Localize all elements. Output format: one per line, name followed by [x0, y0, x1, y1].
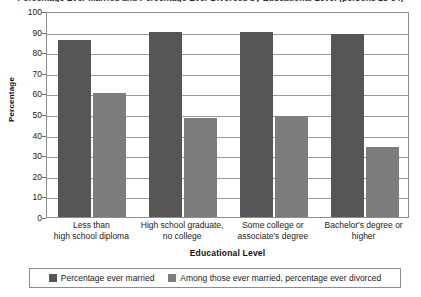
bar-series-0-category-1 [149, 32, 182, 217]
legend-item-1[interactable]: Among those ever married, percentage eve… [168, 273, 381, 283]
bar-series-0-category-2 [240, 32, 273, 217]
y-axis-tick-labels: 0102030405060708090100 [0, 0, 42, 230]
bar-series-0-category-3 [331, 34, 364, 217]
y-axis-tick-label: 0 [0, 214, 42, 223]
y-axis-tick-label: 10 [0, 193, 42, 202]
x-axis-title: Educational Level [46, 248, 409, 258]
y-axis-tick-label: 80 [0, 49, 42, 58]
y-axis-tick-label: 30 [0, 152, 42, 161]
bars-layer [47, 13, 408, 217]
y-axis-tick-label: 70 [0, 69, 42, 78]
x-axis-category-label: Some college orassociate's degree [228, 220, 319, 242]
bar-chart: Percentage Ever Married and Percentage E… [0, 0, 421, 297]
chart-title: Percentage Ever Married and Percentage E… [0, 0, 421, 2]
y-axis-tick-label: 50 [0, 111, 42, 120]
legend-item-0[interactable]: Percentage ever married [49, 273, 155, 283]
y-axis-tick-label: 20 [0, 172, 42, 181]
x-axis-category-label: High school graduate,no college [137, 220, 228, 242]
category-label-line: associate's degree [228, 231, 319, 242]
plot-area [46, 12, 409, 218]
x-axis-category-label: Bachelor's degree orhigher [318, 220, 409, 242]
chart-legend: Percentage ever marriedAmong those ever … [29, 268, 401, 288]
y-axis-tick-label: 40 [0, 131, 42, 140]
y-axis-tick-label: 90 [0, 28, 42, 37]
legend-swatch-icon [49, 274, 57, 282]
category-label-line: high school diploma [46, 231, 137, 242]
x-axis-category-labels: Less thanhigh school diplomaHigh school … [46, 220, 409, 248]
bar-series-1-category-2 [275, 116, 308, 217]
x-axis-category-label: Less thanhigh school diploma [46, 220, 137, 242]
category-label-line: High school graduate, [137, 220, 228, 231]
bar-series-1-category-0 [93, 93, 126, 217]
category-label-line: Some college or [228, 220, 319, 231]
bar-series-1-category-3 [366, 147, 399, 217]
bar-series-1-category-1 [184, 118, 217, 217]
bar-series-0-category-0 [58, 40, 91, 217]
category-label-line: Bachelor's degree or [318, 220, 409, 231]
y-axis-tick-label: 60 [0, 90, 42, 99]
legend-label: Among those ever married, percentage eve… [180, 273, 381, 283]
y-axis-tick-label: 100 [0, 8, 42, 17]
y-axis-tick-mark [42, 218, 46, 219]
category-label-line: Less than [46, 220, 137, 231]
legend-swatch-icon [168, 274, 176, 282]
legend-label: Percentage ever married [61, 273, 155, 283]
category-label-line: higher [318, 231, 409, 242]
category-label-line: no college [137, 231, 228, 242]
